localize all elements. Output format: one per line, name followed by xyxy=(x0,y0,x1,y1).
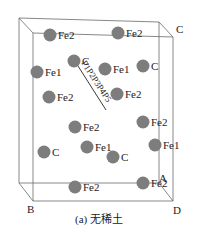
atom-fe1 xyxy=(31,66,44,79)
atom-c xyxy=(68,55,81,68)
atom-label: Fe2 xyxy=(58,29,75,41)
atom-fe2 xyxy=(69,121,82,134)
atom-label: Fe2 xyxy=(57,91,74,103)
atom-fe1 xyxy=(81,141,94,154)
atom-fe2 xyxy=(137,116,150,129)
atom-label: Fe2 xyxy=(126,27,143,39)
atom-label: Fe2 xyxy=(83,181,100,193)
atom-label: Fe1 xyxy=(163,139,180,151)
atom-c xyxy=(38,146,51,159)
atom-fe2 xyxy=(44,29,57,42)
atom-fe2 xyxy=(69,181,82,194)
corner-label-a: A xyxy=(159,172,167,184)
atom-fe2 xyxy=(43,91,56,104)
atom-label: C xyxy=(121,151,128,163)
unit-cell-box xyxy=(19,18,173,201)
atom-label: Fe1 xyxy=(113,63,130,75)
atom-label: Fe2 xyxy=(151,116,168,128)
atom-fe2 xyxy=(137,177,150,190)
atom-label: C xyxy=(151,60,158,72)
corner-label-c: C xyxy=(176,23,183,35)
atom-label: Fe1 xyxy=(45,66,62,78)
atom-label: Fe2 xyxy=(125,88,142,100)
atom-label: Fe1 xyxy=(95,141,112,153)
atom-label: C xyxy=(52,146,59,158)
atom-c xyxy=(107,151,120,164)
atom-c xyxy=(137,60,150,73)
atom-fe1 xyxy=(99,63,112,76)
figure-caption: (a) 无稀土 xyxy=(0,210,198,226)
atom-label: Fe2 xyxy=(83,121,100,133)
crystal-structure-diagram: Fe2Fe2CFe1Fe1CFe2Fe2Fe2Fe2CFe1CFe1Fe2Fe2… xyxy=(0,0,198,244)
atom-fe2 xyxy=(112,27,125,40)
atom-fe1 xyxy=(149,139,162,152)
atom-layer: Fe2Fe2CFe1Fe1CFe2Fe2Fe2Fe2CFe1CFe1Fe2Fe2 xyxy=(31,27,180,194)
